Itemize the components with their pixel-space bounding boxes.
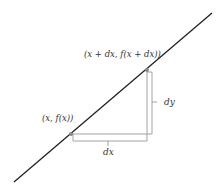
lower-point-label: (x, f(x)): [42, 114, 73, 123]
lower-point-marker: [69, 132, 73, 136]
dx-bracket: [71, 134, 152, 146]
dy-bracket: [147, 70, 157, 134]
upper-point-label: (x + dx, f(x + dx)): [84, 50, 161, 59]
upper-point-marker: [145, 68, 149, 72]
dx-label: dx: [103, 148, 114, 157]
diagram-canvas: [0, 0, 221, 193]
dy-label: dy: [164, 98, 175, 107]
